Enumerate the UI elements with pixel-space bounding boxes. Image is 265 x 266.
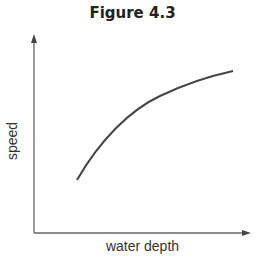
- y-axis-arrow-icon: [31, 34, 37, 43]
- y-axis-label: speed: [4, 122, 20, 160]
- y-axis: [31, 34, 37, 233]
- x-axis-label: water depth: [10, 238, 265, 254]
- chart-plot: [0, 0, 265, 266]
- speed-curve: [77, 71, 233, 180]
- x-axis: [34, 230, 251, 236]
- x-axis-arrow-icon: [242, 230, 251, 236]
